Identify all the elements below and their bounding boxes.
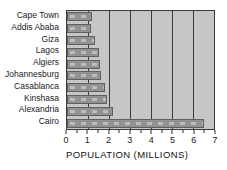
x-axis-major-tick: [129, 130, 130, 134]
category-label: Johannesburg: [0, 69, 63, 81]
x-axis-major-tick: [215, 130, 216, 134]
category-label: Casablanca: [0, 81, 63, 93]
bar: [67, 36, 95, 45]
x-axis-minor-tick: [76, 130, 77, 133]
x-axis-major-tick: [193, 130, 194, 134]
bar: [67, 48, 99, 57]
x-axis-minor-tick: [204, 130, 205, 133]
category-label: Algiers: [0, 57, 63, 69]
x-axis-tick-label: 2: [106, 135, 111, 146]
x-axis-minor-tick: [119, 130, 120, 133]
bar: [67, 83, 105, 92]
x-axis-major-tick: [151, 130, 152, 134]
x-axis-major-tick: [108, 130, 109, 134]
category-label: Alexandria: [0, 104, 63, 116]
category-label: Giza: [0, 34, 63, 46]
gridline: [193, 11, 194, 129]
gridline: [130, 11, 131, 129]
x-axis-minor-tick: [161, 130, 162, 133]
bar: [67, 24, 91, 33]
x-axis-tick-label: 4: [149, 135, 154, 146]
bar: [67, 95, 107, 104]
x-axis-minor-tick: [140, 130, 141, 133]
x-axis-minor-tick: [183, 130, 184, 133]
population-bar-chart: Cape TownAddis AbabaGizaLagosAlgiersJoha…: [0, 0, 227, 170]
x-axis-major-tick: [87, 130, 88, 134]
category-label: Cairo: [0, 116, 63, 128]
x-axis-tick-label: 6: [191, 135, 196, 146]
x-axis-tick-label: 7: [212, 135, 217, 146]
x-axis-tick-labels: 01234567: [66, 135, 215, 146]
category-label: Cape Town: [0, 10, 63, 22]
bar: [67, 60, 100, 69]
gridline: [151, 11, 152, 129]
category-label: Lagos: [0, 45, 63, 57]
plot-area: [66, 10, 215, 130]
x-axis-tick-label: 0: [63, 135, 68, 146]
gridline: [172, 11, 173, 129]
bar: [67, 119, 204, 128]
x-axis-tick-label: 3: [127, 135, 132, 146]
category-label: Kinshasa: [0, 93, 63, 105]
x-axis-major-tick: [66, 130, 67, 134]
x-axis-minor-tick: [97, 130, 98, 133]
x-axis-tick-label: 1: [85, 135, 90, 146]
y-axis-labels: Cape TownAddis AbabaGizaLagosAlgiersJoha…: [0, 10, 63, 128]
category-label: Addis Ababa: [0, 22, 63, 34]
x-axis-tick-label: 5: [170, 135, 175, 146]
bar: [67, 71, 101, 80]
x-axis-major-tick: [172, 130, 173, 134]
x-axis-title: POPULATION (MILLIONS): [66, 149, 188, 160]
bar: [67, 12, 92, 21]
bar: [67, 107, 113, 116]
